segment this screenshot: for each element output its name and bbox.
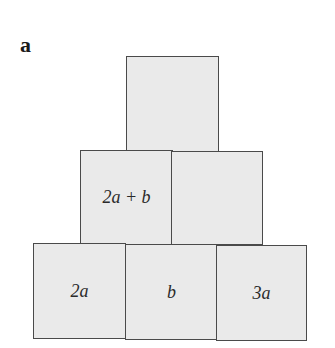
pyramid-cell-top bbox=[126, 56, 219, 152]
cell-text: 3a bbox=[253, 283, 271, 304]
cell-text: b bbox=[167, 282, 176, 303]
pyramid-cell-bottom-right: 3a bbox=[216, 245, 307, 341]
figure-label: a bbox=[20, 32, 31, 58]
cell-text: 2a + b bbox=[102, 187, 150, 208]
cell-text: 2a bbox=[71, 281, 89, 302]
pyramid-cell-bottom-middle: b bbox=[125, 244, 218, 340]
pyramid-cell-bottom-left: 2a bbox=[33, 243, 126, 339]
pyramid-cell-middle-right bbox=[171, 151, 263, 245]
pyramid-cell-middle-left: 2a + b bbox=[80, 150, 173, 245]
